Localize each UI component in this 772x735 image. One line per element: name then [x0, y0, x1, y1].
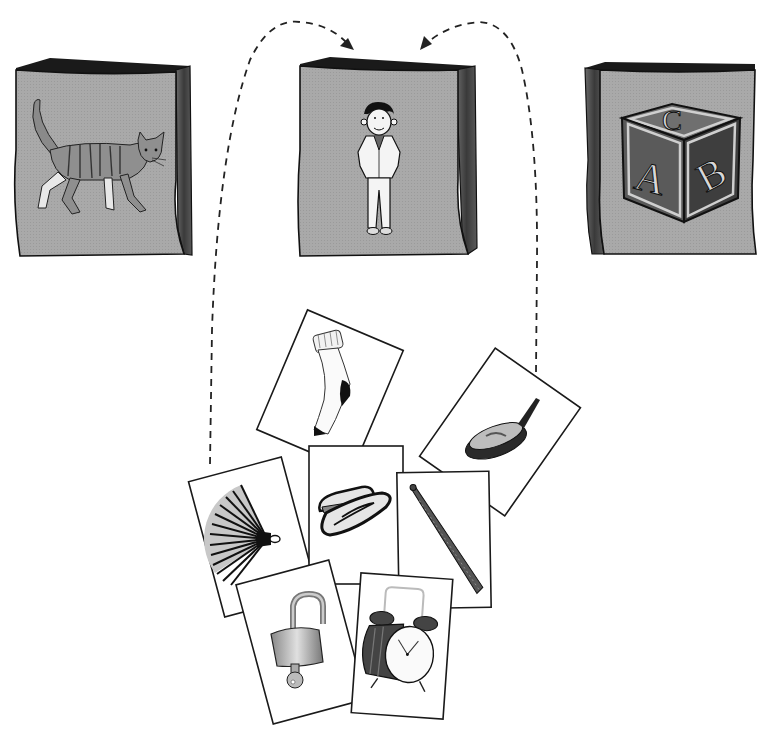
diagram-stage: Cat bag Person bag [0, 0, 772, 735]
bag-cat: Cat bag [0, 0, 192, 256]
card-clock[interactable]: Alarm clock [351, 573, 453, 719]
arrowhead-icon [420, 36, 432, 50]
bag-side-panel [176, 66, 192, 255]
diagram-canvas: Cat bag Person bag [0, 0, 772, 735]
svg-text:C: C [662, 103, 682, 136]
arrowhead-icon [340, 38, 354, 50]
abc-block-icon: C A B [622, 103, 740, 222]
